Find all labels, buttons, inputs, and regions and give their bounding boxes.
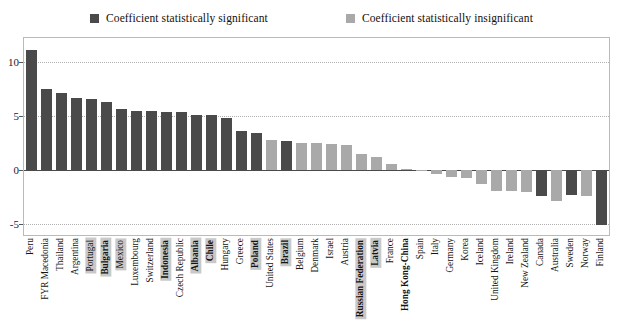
x-label-australia: Australia (551, 238, 560, 272)
plot-area (23, 37, 610, 236)
bar-ireland (506, 170, 517, 191)
x-label-cell: Hungary (218, 236, 233, 330)
x-label-united-kingdom: United Kingdom (491, 238, 500, 301)
x-label-cell: Germany (443, 236, 458, 330)
x-label-cell: Spain (413, 236, 428, 330)
x-label-united-states: United States (266, 238, 275, 288)
bar-indonesia (161, 112, 172, 170)
y-tick-label-10: 10 (8, 56, 19, 68)
x-label-chile: Chile (205, 238, 216, 263)
legend-item-significant: Coefficient statistically significant (90, 12, 268, 24)
x-label-finland: Finland (596, 238, 605, 266)
x-label-cell: United Kingdom (488, 236, 503, 330)
x-label-cell: New Zealand (518, 236, 533, 330)
x-label-cell: Luxembourg (128, 236, 143, 330)
bar-poland (251, 133, 262, 170)
x-label-latvia: Latvia (370, 238, 381, 268)
bar-peru (26, 50, 37, 170)
x-label-cell: Finland (593, 236, 608, 330)
x-label-cell: Latvia (368, 236, 383, 330)
x-label-portugal: Portugal (85, 238, 96, 274)
bar-portugal (86, 99, 97, 170)
x-label-belgium: Belgium (296, 238, 305, 270)
bar-fyr-macedonia (41, 89, 52, 170)
x-label-canada: Canada (536, 238, 545, 266)
x-label-cell: FYR Macedonia (38, 236, 53, 330)
bar-thailand (56, 93, 67, 170)
x-label-cell: Austria (338, 236, 353, 330)
x-label-cell: Norway (578, 236, 593, 330)
x-label-cell: Korea (458, 236, 473, 330)
legend-item-insignificant: Coefficient statistically insignificant (346, 12, 533, 24)
bar-czech-republic (176, 112, 187, 170)
bar-australia (551, 170, 562, 201)
x-label-hong-kong-china: Hong Kong-China (401, 238, 410, 311)
bar-germany (446, 170, 457, 176)
x-label-cell: Italy (428, 236, 443, 330)
bar-norway (581, 170, 592, 196)
x-label-cell: Iceland (473, 236, 488, 330)
bar-albania (191, 115, 202, 170)
bar-belgium (296, 143, 307, 170)
y-tick-label--5: -5 (10, 218, 19, 230)
x-label-russian-federation: Russian Federation (355, 238, 366, 319)
bar-united-states (266, 140, 277, 170)
x-label-cell: Albania (188, 236, 203, 330)
x-label-cell: Israel (323, 236, 338, 330)
x-label-cell: Australia (548, 236, 563, 330)
x-label-thailand: Thailand (56, 238, 65, 271)
x-label-cell: Hong Kong-China (398, 236, 413, 330)
x-label-bulgaria: Bulgaria (100, 238, 111, 277)
bar-brazil (281, 141, 292, 170)
x-label-cell: Canada (533, 236, 548, 330)
x-label-cell: Portugal (83, 236, 98, 330)
legend-label-significant: Coefficient statistically significant (106, 12, 268, 24)
bar-france (386, 164, 397, 170)
x-label-cell: Argentina (68, 236, 83, 330)
x-label-germany: Germany (446, 238, 455, 273)
x-label-cell: Russian Federation (353, 236, 368, 330)
x-axis-labels: PeruFYR MacedoniaThailandArgentinaPortug… (23, 236, 610, 330)
x-label-sweden: Sweden (566, 238, 575, 267)
x-label-spain: Spain (416, 238, 425, 259)
x-label-new-zealand: New Zealand (521, 238, 530, 288)
x-label-cell: France (383, 236, 398, 330)
x-label-korea: Korea (461, 238, 470, 261)
x-label-luxembourg: Luxembourg (131, 238, 140, 286)
bar-hungary (221, 118, 232, 170)
x-label-fyr-macedonia: FYR Macedonia (41, 238, 50, 300)
x-label-norway: Norway (581, 238, 590, 268)
x-label-cell: Peru (23, 236, 38, 330)
bar-chile (206, 115, 217, 170)
x-label-ireland: Ireland (506, 238, 515, 264)
x-label-cell: Thailand (53, 236, 68, 330)
x-label-peru: Peru (26, 238, 35, 255)
x-label-cell: Mexico (113, 236, 128, 330)
legend-swatch-significant (90, 14, 99, 23)
x-label-hungary: Hungary (221, 238, 230, 271)
bar-series (24, 38, 609, 235)
x-label-cell: Greece (233, 236, 248, 330)
x-label-austria: Austria (341, 238, 350, 265)
x-label-cell: United States (263, 236, 278, 330)
bar-latvia (371, 157, 382, 170)
x-label-france: France (386, 238, 395, 263)
bar-united-kingdom (491, 170, 502, 191)
x-label-iceland: Iceland (476, 238, 485, 265)
bar-finland (596, 170, 607, 225)
x-label-cell: Belgium (293, 236, 308, 330)
x-label-argentina: Argentina (71, 238, 80, 275)
bar-spain (416, 170, 427, 171)
x-label-indonesia: Indonesia (160, 238, 171, 281)
x-label-denmark: Denmark (311, 238, 320, 273)
bar-israel (326, 144, 337, 170)
bar-korea (461, 170, 472, 178)
x-label-israel: Israel (326, 238, 335, 259)
bar-new-zealand (521, 170, 532, 192)
bar-luxembourg (131, 111, 142, 171)
x-label-mexico: Mexico (115, 238, 126, 270)
bar-canada (536, 170, 547, 196)
bar-russian-federation (356, 154, 367, 170)
x-label-switzerland: Switzerland (146, 238, 155, 282)
bar-austria (341, 145, 352, 170)
